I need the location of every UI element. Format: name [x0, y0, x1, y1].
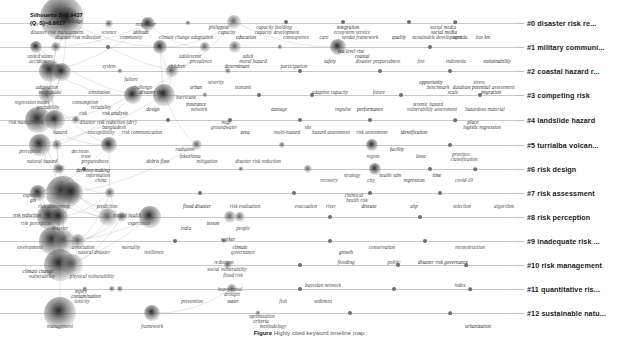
keyword-label[interactable]: community — [120, 35, 142, 40]
keyword-label[interactable]: city — [367, 178, 374, 183]
keyword-node[interactable] — [368, 191, 372, 195]
keyword-node[interactable] — [235, 212, 245, 222]
keyword-label[interactable]: system — [102, 64, 116, 69]
keyword-label[interactable]: capacity — [218, 30, 235, 35]
cluster-label-12[interactable]: #12 sustainable natu... — [527, 309, 606, 318]
keyword-node[interactable] — [153, 40, 167, 54]
keyword-node[interactable] — [166, 118, 170, 122]
keyword-label[interactable]: agenda — [453, 35, 468, 40]
keyword-label[interactable]: covid-19 — [455, 178, 473, 183]
keyword-node[interactable] — [341, 20, 345, 24]
keyword-label[interactable]: disaster risk governance — [418, 260, 468, 265]
keyword-label[interactable]: facility — [390, 147, 404, 152]
keyword-label[interactable]: lesson — [207, 221, 220, 226]
keyword-label[interactable]: gis — [30, 198, 36, 203]
keyword-label[interactable]: experience — [128, 221, 150, 226]
keyword-label[interactable]: children — [169, 64, 186, 69]
keyword-label[interactable]: selection — [453, 204, 471, 209]
keyword-label[interactable]: care — [320, 35, 329, 40]
keyword-label[interactable]: risk management — [9, 120, 44, 125]
keyword-label[interactable]: urban — [190, 85, 202, 90]
keyword-node[interactable] — [284, 20, 288, 24]
keyword-label[interactable]: impulse — [335, 107, 351, 112]
keyword-label[interactable]: preparedness — [81, 159, 108, 164]
keyword-node[interactable] — [278, 45, 283, 50]
keyword-label[interactable]: losse — [416, 154, 426, 159]
keyword-label[interactable]: consequence — [283, 35, 309, 40]
keyword-label[interactable]: sendai framework — [342, 35, 379, 40]
keyword-label[interactable]: growth — [339, 250, 353, 255]
keyword-label[interactable]: reconstruction — [455, 245, 485, 250]
keyword-label[interactable]: science — [102, 30, 117, 35]
keyword-label[interactable]: management — [47, 324, 73, 329]
keyword-label[interactable]: drought — [224, 292, 240, 297]
keyword-node[interactable] — [428, 167, 432, 171]
keyword-node[interactable] — [239, 167, 244, 172]
keyword-node[interactable] — [298, 287, 302, 291]
keyword-label[interactable]: natural hazard — [27, 159, 57, 164]
keyword-label[interactable]: mortality — [122, 245, 141, 250]
keyword-label[interactable]: environment — [17, 245, 42, 250]
keyword-label[interactable]: risk assessment — [356, 130, 388, 135]
keyword-label[interactable]: risk evaluation — [230, 204, 260, 209]
keyword-label[interactable]: time — [433, 173, 442, 178]
keyword-label[interactable]: simulation — [88, 90, 110, 95]
keyword-label[interactable]: hazard assessment — [312, 130, 350, 135]
keyword-label[interactable]: determinant — [225, 64, 250, 69]
keyword-label[interactable]: flood disaster — [183, 204, 211, 209]
keyword-label[interactable]: groundwater — [211, 125, 237, 130]
keyword-node[interactable] — [468, 287, 472, 291]
keyword-label[interactable]: strategy — [344, 173, 360, 178]
keyword-node[interactable] — [378, 69, 382, 73]
keyword-label[interactable]: toxicity — [75, 299, 90, 304]
keyword-label[interactable]: network — [191, 107, 207, 112]
keyword-node[interactable] — [348, 311, 352, 315]
keyword-node[interactable] — [109, 286, 115, 292]
keyword-label[interactable]: severity — [208, 80, 224, 85]
keyword-label[interactable]: mitigation — [197, 159, 218, 164]
keyword-label[interactable]: risk analysis — [102, 111, 128, 116]
keyword-node[interactable] — [117, 286, 123, 292]
cluster-label-2[interactable]: #2 coastal hazard r... — [527, 67, 600, 76]
cluster-label-4[interactable]: #4 landslide hazard — [527, 116, 595, 125]
keyword-node[interactable] — [186, 21, 191, 26]
keyword-label[interactable]: quality — [392, 35, 406, 40]
keyword-label[interactable]: disaster risk — [139, 90, 164, 95]
keyword-node[interactable] — [428, 45, 432, 49]
keyword-label[interactable]: responder — [136, 22, 156, 27]
keyword-label[interactable]: disability — [43, 64, 62, 69]
cluster-label-1[interactable]: #1 military communi... — [527, 43, 605, 52]
keyword-label[interactable]: india — [181, 226, 191, 231]
keyword-node[interactable] — [448, 143, 452, 147]
keyword-node[interactable] — [45, 110, 65, 130]
keyword-node[interactable] — [453, 118, 457, 122]
keyword-label[interactable]: failure — [124, 77, 137, 82]
keyword-label[interactable]: prevalence — [190, 59, 212, 64]
keyword-label[interactable]: design — [146, 107, 159, 112]
cluster-label-11[interactable]: #11 quantitative ris... — [527, 285, 600, 294]
keyword-label[interactable]: recovery — [320, 178, 338, 183]
keyword-label[interactable]: safety — [324, 59, 336, 64]
keyword-label[interactable]: migration — [481, 90, 501, 95]
keyword-node[interactable] — [392, 287, 396, 291]
keyword-label[interactable]: risk reduction — [13, 213, 41, 218]
cluster-label-9[interactable]: #9 inadequate risk ... — [527, 237, 600, 246]
keyword-node[interactable] — [328, 239, 332, 243]
keyword-node[interactable] — [298, 118, 302, 122]
keyword-label[interactable]: disaster risk reduction — [235, 159, 281, 164]
keyword-label[interactable]: vulnerability — [29, 274, 55, 279]
keyword-label[interactable]: politic — [387, 260, 400, 265]
keyword-label[interactable]: education — [236, 35, 256, 40]
keyword-label[interactable]: health sdm — [379, 173, 401, 178]
keyword-label[interactable]: worker — [221, 237, 235, 242]
keyword-node[interactable] — [198, 191, 202, 195]
keyword-node[interactable] — [257, 93, 261, 97]
keyword-label[interactable]: area — [240, 130, 249, 135]
keyword-label[interactable]: risk perception — [21, 221, 52, 226]
keyword-node[interactable] — [448, 69, 452, 73]
keyword-label[interactable]: hazard — [53, 130, 67, 135]
keyword-label[interactable]: fish — [279, 299, 286, 304]
cluster-label-8[interactable]: #8 risk perception — [527, 213, 590, 222]
keyword-label[interactable]: governance — [231, 250, 255, 255]
keyword-label[interactable]: disaster preparedness — [356, 59, 400, 64]
